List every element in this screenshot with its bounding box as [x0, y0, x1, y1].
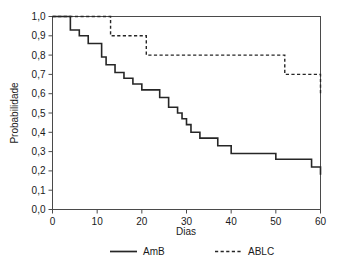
series-line-ablc	[53, 17, 321, 94]
y-tick-label: 0,8	[32, 50, 46, 61]
x-axis-ticks: 0102030405060	[50, 210, 327, 227]
x-tick-label: 0	[50, 216, 56, 227]
y-tick-label: 0,7	[32, 69, 46, 80]
x-tick-label: 30	[181, 216, 193, 227]
plot-frame	[53, 17, 321, 210]
y-tick-label: 0,0	[32, 204, 46, 215]
y-tick-label: 0,4	[32, 127, 46, 138]
y-tick-label: 0,6	[32, 88, 46, 99]
y-tick-label: 0,3	[32, 146, 46, 157]
survival-curve-figure: 0,00,10,20,30,40,50,60,70,80,91,0 010203…	[0, 0, 342, 271]
x-axis-title: Dias	[176, 226, 196, 237]
legend-label-amb: AmB	[143, 246, 165, 257]
y-tick-label: 0,5	[32, 108, 46, 119]
x-tick-label: 60	[315, 216, 327, 227]
series-group	[53, 17, 321, 175]
y-tick-label: 0,2	[32, 165, 46, 176]
x-tick-label: 10	[92, 216, 104, 227]
x-tick-label: 40	[226, 216, 238, 227]
series-line-amb	[53, 17, 321, 175]
x-tick-label: 20	[136, 216, 148, 227]
y-axis-ticks: 0,00,10,20,30,40,50,60,70,80,91,0	[32, 11, 53, 215]
chart-legend: AmBABLC	[110, 246, 274, 257]
x-tick-label: 50	[270, 216, 282, 227]
y-tick-label: 1,0	[32, 11, 46, 22]
chart-canvas: 0,00,10,20,30,40,50,60,70,80,91,0 010203…	[0, 0, 342, 271]
y-tick-label: 0,1	[32, 185, 46, 196]
y-tick-label: 0,9	[32, 30, 46, 41]
y-axis-title: Probabilidade	[9, 82, 20, 144]
legend-label-ablc: ABLC	[248, 246, 274, 257]
